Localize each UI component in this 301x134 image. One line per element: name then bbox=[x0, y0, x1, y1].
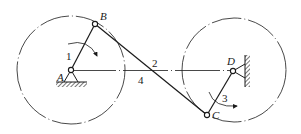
linkage-diagram: A B C D 1 2 3 4 bbox=[0, 0, 301, 134]
label-b: B bbox=[100, 10, 107, 22]
label-link-4: 4 bbox=[138, 74, 144, 86]
link-3-rocker bbox=[207, 71, 233, 115]
joint-a bbox=[68, 67, 73, 72]
label-d: D bbox=[226, 55, 235, 67]
label-link-3: 3 bbox=[222, 92, 228, 104]
link-2-coupler bbox=[95, 24, 207, 115]
joint-c bbox=[204, 112, 209, 117]
label-link-2: 2 bbox=[152, 57, 158, 69]
joint-d bbox=[230, 68, 235, 73]
label-c: C bbox=[212, 109, 220, 121]
label-a: A bbox=[56, 71, 64, 83]
joint-b bbox=[92, 21, 97, 26]
link-1-crank bbox=[71, 24, 95, 70]
label-link-1: 1 bbox=[66, 50, 72, 62]
